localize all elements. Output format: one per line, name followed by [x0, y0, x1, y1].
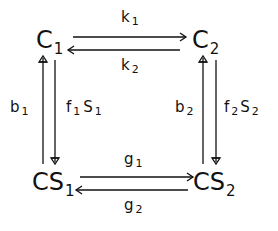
label-f2s2: f2S2 [224, 100, 259, 117]
label-b1-sub: 1 [22, 105, 29, 118]
label-g1: g1 [124, 152, 143, 169]
label-b2-sub: 2 [187, 105, 194, 118]
label-k1-sub: 1 [132, 15, 139, 28]
node-cs2-base: CS [193, 168, 225, 196]
label-f1-sub: 1 [73, 105, 80, 118]
node-cs2-sub: 2 [226, 182, 236, 200]
node-c2-sub: 2 [210, 40, 220, 58]
label-g2-sub: 2 [136, 203, 143, 216]
label-k1-base: k [121, 8, 130, 26]
arrow-c1-to-cs1 [51, 60, 59, 164]
kinetic-scheme-diagram: C1 C2 CS1 CS2 k1 k2 g1 g2 b1 f1S1 b2 f2S… [0, 0, 278, 231]
label-g2-base: g [124, 196, 134, 214]
label-g2: g2 [124, 198, 143, 215]
label-f1s1: f1S1 [66, 100, 102, 117]
label-g1-base: g [124, 150, 134, 168]
arrow-cs2-to-cs1 [76, 186, 188, 194]
node-cs1-base: CS [32, 168, 64, 196]
node-c1-base: C [36, 26, 53, 54]
label-b2: b2 [175, 100, 194, 117]
label-f2-base: f [224, 98, 229, 116]
label-k2: k2 [121, 58, 139, 75]
label-s2-sub: 2 [252, 105, 259, 118]
node-c2-base: C [192, 26, 209, 54]
label-s1-base: S [83, 98, 93, 116]
label-b1: b1 [10, 100, 29, 117]
arrow-c2-to-cs2 [212, 60, 220, 164]
node-cs1-sub: 1 [65, 182, 75, 200]
label-b2-base: b [175, 98, 185, 116]
arrow-cs1-to-cs2 [80, 173, 193, 181]
label-k2-base: k [121, 56, 130, 74]
arrow-c1-to-c2 [73, 33, 186, 41]
node-c1: C1 [36, 28, 63, 57]
label-f1-base: f [66, 98, 71, 116]
label-g1-sub: 1 [136, 157, 143, 170]
arrow-cs1-to-c1 [39, 56, 47, 164]
label-s2-base: S [240, 98, 250, 116]
arrow-c2-to-c1 [68, 46, 180, 54]
label-b1-base: b [10, 98, 20, 116]
arrow-cs2-to-c2 [199, 56, 207, 164]
node-c1-sub: 1 [54, 40, 64, 58]
label-f2-sub: 2 [231, 105, 238, 118]
label-k2-sub: 2 [132, 63, 139, 76]
label-k1: k1 [121, 10, 139, 27]
label-s1-sub: 1 [95, 105, 102, 118]
node-cs1: CS1 [32, 170, 75, 199]
node-cs2: CS2 [193, 170, 236, 199]
node-c2: C2 [192, 28, 219, 57]
